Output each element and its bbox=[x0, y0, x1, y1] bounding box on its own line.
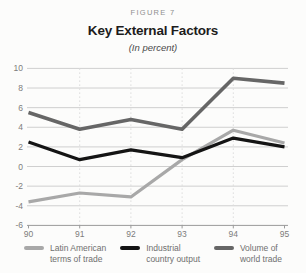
industrial-line-swatch-icon bbox=[120, 246, 140, 250]
y-tick-label: 4 bbox=[18, 122, 23, 132]
y-tick-label: 0 bbox=[18, 162, 23, 172]
x-tick-label: 95 bbox=[280, 229, 290, 239]
y-tick-label: 2 bbox=[18, 142, 23, 152]
x-tick-label: 92 bbox=[126, 229, 136, 239]
series-line-2 bbox=[29, 78, 285, 129]
y-tick-label: -4 bbox=[15, 201, 23, 211]
y-tick-label: 8 bbox=[18, 83, 23, 93]
legend-item-industrial-output: Industrial country output bbox=[120, 243, 200, 264]
y-tick-label: 10 bbox=[14, 63, 24, 73]
x-tick-label: 91 bbox=[75, 229, 85, 239]
legend-item-latam-terms-of-trade: Latin American terms of trade bbox=[24, 243, 106, 264]
figure-header: FIGURE 7 Key External Factors (In percen… bbox=[0, 0, 306, 54]
figure-subtitle: (In percent) bbox=[0, 42, 306, 54]
x-tick-label: 94 bbox=[229, 229, 239, 239]
latam-line-swatch-icon bbox=[24, 246, 44, 250]
legend-label: Industrial country output bbox=[146, 243, 200, 264]
legend-item-world-trade-volume: Volume of world trade bbox=[214, 243, 282, 264]
y-tick-label: -2 bbox=[15, 181, 23, 191]
y-tick-label: 6 bbox=[18, 103, 23, 113]
figure-label: FIGURE 7 bbox=[0, 8, 306, 18]
series-line-1 bbox=[29, 138, 285, 160]
x-tick-label: 93 bbox=[177, 229, 187, 239]
legend-label: Volume of world trade bbox=[240, 243, 282, 264]
figure-7: FIGURE 7 Key External Factors (In percen… bbox=[0, 0, 306, 273]
figure-title: Key External Factors bbox=[0, 23, 306, 39]
legend-label: Latin American terms of trade bbox=[50, 243, 106, 264]
x-tick-label: 90 bbox=[24, 229, 34, 239]
y-tick-label: -6 bbox=[15, 220, 23, 230]
chart-legend: Latin American terms of trade Industrial… bbox=[0, 243, 306, 264]
world-trade-line-swatch-icon bbox=[214, 246, 234, 250]
chart-svg: -6-4-20246810909192939495 bbox=[0, 56, 306, 240]
